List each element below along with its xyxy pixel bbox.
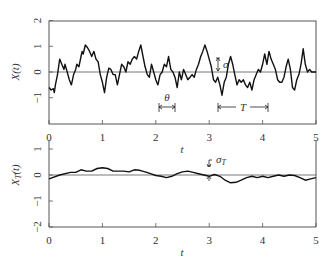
- period-T-annotation: T: [218, 101, 268, 113]
- top-x-ticks: 012345: [46, 120, 319, 143]
- bottom-x-ticks: 012345: [46, 223, 319, 246]
- bottom-x-tick-label: 1: [100, 234, 106, 246]
- top-y-tick-label: 2: [31, 18, 43, 24]
- top-x-tick-label: 4: [260, 131, 266, 143]
- top-x-tick-label: 1: [100, 131, 106, 143]
- top-y-tick-label: −1: [31, 92, 43, 104]
- sigma-annotation: σ: [216, 58, 229, 71]
- top-x-tick-label: 3: [206, 131, 212, 143]
- top-y-tick-label: 1: [31, 44, 43, 50]
- bottom-panel: −2−101 012345 XT(t) t σT: [9, 140, 320, 258]
- chart-canvas: −1012 012345 X(t) t σ θ: [0, 0, 332, 270]
- bottom-y-tick-label: 1: [31, 146, 43, 152]
- bottom-x-tick-label: 5: [313, 234, 319, 246]
- sigma-label: σ: [223, 58, 229, 70]
- top-x-axis-title: t: [180, 143, 184, 155]
- theta-annotation: θ: [159, 91, 175, 112]
- sigma-T-annotation: σT: [207, 153, 226, 181]
- bottom-y-tick-label: −2: [31, 221, 43, 233]
- top-y-tick-label: 0: [31, 69, 43, 75]
- top-y-ticks: −1012: [31, 18, 53, 104]
- bottom-x-tick-label: 4: [260, 234, 266, 246]
- top-x-tick-label: 2: [153, 131, 159, 143]
- top-series-line: [49, 45, 316, 95]
- bottom-x-tick-label: 2: [153, 234, 159, 246]
- T-label: T: [240, 101, 247, 113]
- bottom-x-tick-label: 3: [206, 234, 212, 246]
- bottom-x-axis-title: t: [180, 246, 184, 258]
- sigma-T-label: σT: [216, 153, 226, 167]
- top-panel: −1012 012345 X(t) t σ θ: [9, 18, 320, 155]
- bottom-y-tick-label: 0: [31, 172, 43, 178]
- theta-label: θ: [164, 91, 170, 103]
- bottom-y-axis-title: XT(t): [9, 164, 23, 187]
- top-y-axis-title: X(t): [9, 63, 22, 81]
- figure: −1012 012345 X(t) t σ θ: [0, 0, 332, 270]
- bottom-y-ticks: −2−101: [31, 146, 53, 233]
- bottom-x-tick-label: 0: [46, 234, 52, 246]
- bottom-y-tick-label: −1: [31, 195, 43, 207]
